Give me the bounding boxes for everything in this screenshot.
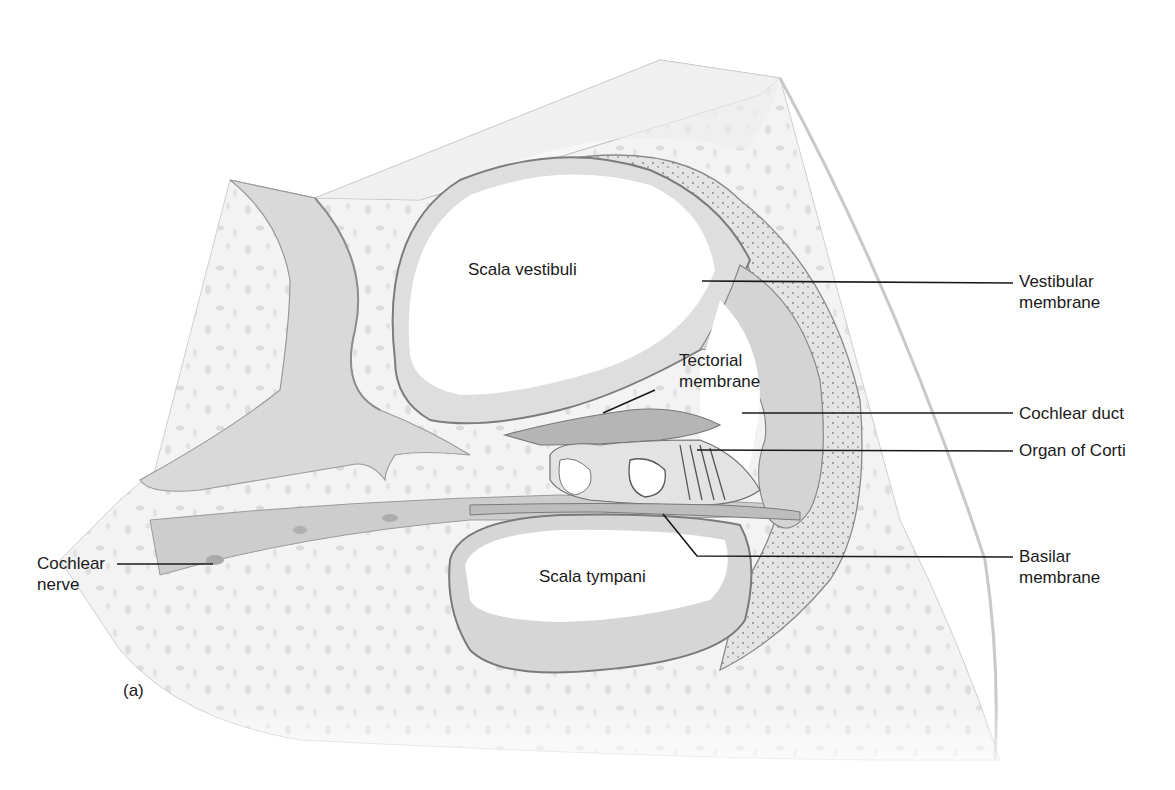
leader-organ-of-corti — [697, 450, 1013, 451]
label-tectorial-membrane: Tectorial membrane — [679, 350, 760, 392]
label-cochlear-nerve: Cochlear nerve — [37, 553, 105, 595]
label-line-2: membrane — [679, 371, 760, 392]
label-line-2: nerve — [37, 574, 105, 595]
label-basilar-membrane: Basilar membrane — [1019, 546, 1100, 588]
scala-tympani — [449, 514, 751, 672]
label-cochlear-duct: Cochlear duct — [1019, 403, 1124, 424]
panel-label: (a) — [123, 680, 144, 701]
label-scala-tympani: Scala tympani — [539, 566, 646, 587]
label-line-1: Basilar — [1019, 546, 1100, 567]
label-organ-of-corti: Organ of Corti — [1019, 440, 1126, 461]
label-scala-vestibuli: Scala vestibuli — [468, 259, 577, 280]
cochlea-illustration — [0, 0, 1175, 790]
label-line-1: Vestibular — [1019, 271, 1100, 292]
label-line-1: Cochlear — [37, 553, 105, 574]
label-line-2: membrane — [1019, 567, 1100, 588]
label-line-2: membrane — [1019, 292, 1100, 313]
label-line-1: Tectorial — [679, 350, 760, 371]
label-vestibular-membrane: Vestibular membrane — [1019, 271, 1100, 313]
